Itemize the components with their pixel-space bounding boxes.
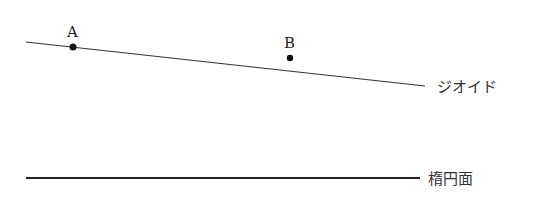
point-b — [287, 55, 293, 61]
point-b-label: B — [284, 34, 295, 52]
point-a-label: A — [66, 23, 78, 41]
geoid-ellipsoid-diagram: ジオイド A B 楕円面 — [0, 0, 533, 213]
ellipsoid-label: 楕円面 — [428, 170, 473, 188]
geoid-label: ジオイド — [437, 78, 497, 96]
geoid-line — [26, 42, 425, 86]
point-a — [70, 44, 77, 51]
